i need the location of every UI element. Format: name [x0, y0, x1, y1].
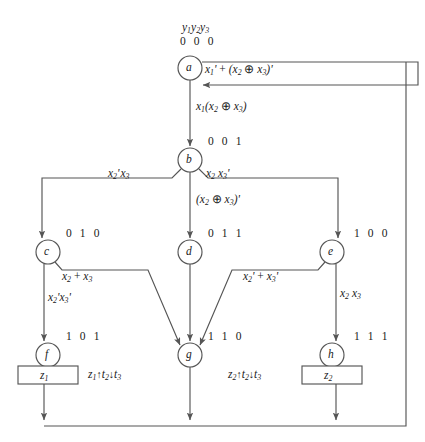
node-label-b: b: [186, 154, 192, 166]
output-label-z1: z1: [40, 370, 48, 383]
transition-label-e-to-g: x2' + x3': [243, 271, 278, 284]
node-label-c: c: [44, 246, 49, 258]
transition-label-e-to-h: x2 x3: [340, 288, 361, 301]
transition-label-b-to-d: (x2 ⊕ x3)': [196, 194, 240, 207]
state-code-f: 1 0 1: [66, 331, 102, 343]
transition-label-a-to-b: x1(x2 ⊕ x3): [196, 101, 246, 114]
state-diagram-canvas: y1y2y3 a b c d e f g h 0 0 0 0 0 1 0 1 0…: [0, 0, 425, 442]
output-label-z2: z2: [324, 370, 332, 383]
state-code-h: 1 1 1: [354, 331, 390, 343]
state-code-g: 1 1 0: [208, 331, 244, 343]
transition-label-b-to-c: x2' x3: [108, 168, 129, 181]
node-label-f: f: [45, 349, 48, 361]
state-code-a: 0 0 0: [180, 36, 216, 48]
transition-label-c-to-f: x2'x3': [48, 292, 71, 305]
timing-annotation-z1: z1↑t2↓t3: [88, 369, 121, 382]
state-code-c: 0 1 0: [66, 228, 102, 240]
node-label-a: a: [186, 62, 192, 74]
transition-label-c-to-g: x2 + x3: [62, 271, 92, 284]
node-label-h: h: [328, 349, 334, 361]
transition-label-b-to-e: x2 x3': [206, 168, 229, 181]
transition-label-a-self: x1' + (x2 ⊕ x3)': [205, 64, 273, 77]
state-code-d: 0 1 1: [208, 228, 244, 240]
state-code-b: 0 0 1: [208, 136, 244, 148]
node-label-g: g: [186, 349, 192, 361]
state-variable-header: y1y2y3: [182, 22, 209, 35]
state-code-e: 1 0 0: [354, 228, 390, 240]
node-label-e: e: [328, 246, 333, 258]
node-label-d: d: [186, 246, 192, 258]
timing-annotation-z2: z2↑t2↓t3: [228, 369, 261, 382]
